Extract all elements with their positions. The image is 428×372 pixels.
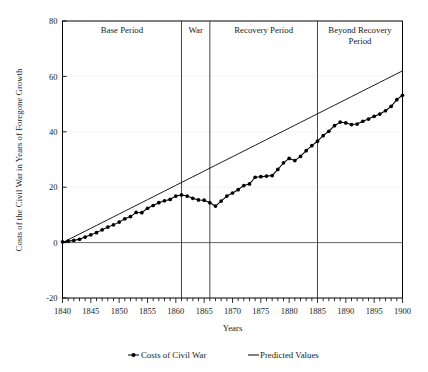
data-point bbox=[265, 174, 269, 178]
data-point bbox=[321, 134, 325, 138]
xtick-label-1860: 1860 bbox=[167, 306, 184, 316]
xtick-label-1855: 1855 bbox=[139, 306, 156, 316]
data-point bbox=[401, 93, 405, 97]
ytick-label--20: -20 bbox=[46, 293, 57, 303]
data-point bbox=[146, 206, 150, 210]
data-point bbox=[89, 233, 93, 237]
data-point bbox=[202, 198, 206, 202]
data-point bbox=[259, 175, 263, 179]
data-point bbox=[225, 194, 229, 198]
data-point bbox=[338, 120, 342, 124]
ytick-label-20: 20 bbox=[49, 182, 58, 192]
data-point bbox=[350, 123, 354, 127]
xtick-label-1850: 1850 bbox=[111, 306, 128, 316]
data-point bbox=[327, 129, 331, 133]
data-point bbox=[242, 184, 246, 188]
period-band-label-3: Beyond Recovery bbox=[328, 25, 392, 35]
xtick-label-1885: 1885 bbox=[309, 306, 326, 316]
data-point bbox=[378, 112, 382, 116]
data-point bbox=[95, 231, 99, 235]
data-point bbox=[208, 201, 212, 205]
x-axis-title: Years bbox=[223, 323, 243, 333]
data-point bbox=[253, 175, 257, 179]
data-point bbox=[344, 121, 348, 125]
data-point bbox=[293, 159, 297, 163]
xtick-label-1875: 1875 bbox=[252, 306, 269, 316]
xtick-label-1890: 1890 bbox=[337, 306, 354, 316]
data-point bbox=[310, 144, 314, 148]
data-point bbox=[78, 237, 82, 241]
period-band-label-3-line2: Period bbox=[349, 36, 373, 46]
ytick-label-60: 60 bbox=[49, 72, 58, 82]
data-point bbox=[100, 228, 104, 232]
xtick-label-1900: 1900 bbox=[394, 306, 411, 316]
data-point bbox=[117, 220, 121, 224]
ytick-label-40: 40 bbox=[49, 127, 58, 137]
data-point bbox=[372, 114, 376, 118]
data-point bbox=[163, 199, 167, 203]
xtick-label-1845: 1845 bbox=[82, 306, 99, 316]
data-point bbox=[180, 193, 184, 197]
data-point bbox=[123, 217, 127, 221]
period-band-label-1: War bbox=[188, 25, 203, 35]
costs-of-civil-war-chart: Base PeriodWarRecovery PeriodBeyond Reco… bbox=[0, 0, 428, 372]
legend-marker-costs-of-civil-war bbox=[131, 353, 135, 357]
ytick-label-0: 0 bbox=[53, 238, 57, 248]
period-band-label-2: Recovery Period bbox=[234, 25, 293, 35]
data-point bbox=[304, 149, 308, 153]
data-point bbox=[282, 161, 286, 165]
data-point bbox=[333, 124, 337, 128]
xtick-label-1895: 1895 bbox=[366, 306, 383, 316]
period-band-label-0: Base Period bbox=[101, 25, 144, 35]
data-point bbox=[134, 211, 138, 215]
data-point bbox=[106, 225, 110, 229]
data-point bbox=[248, 182, 252, 186]
data-point bbox=[112, 223, 116, 227]
data-point bbox=[367, 117, 371, 121]
data-point bbox=[236, 188, 240, 192]
data-point bbox=[191, 196, 195, 200]
data-point bbox=[140, 211, 144, 215]
data-point bbox=[395, 98, 399, 102]
data-point bbox=[83, 235, 87, 239]
xtick-label-1880: 1880 bbox=[281, 306, 298, 316]
data-point bbox=[316, 139, 320, 143]
ytick-label-80: 80 bbox=[49, 16, 58, 26]
xtick-label-1865: 1865 bbox=[196, 306, 213, 316]
data-point bbox=[219, 199, 223, 203]
series-line-costs-of-civil-war bbox=[63, 95, 403, 242]
data-point bbox=[61, 240, 65, 244]
xtick-label-1840: 1840 bbox=[54, 306, 71, 316]
data-point bbox=[151, 204, 155, 208]
data-point bbox=[231, 191, 235, 195]
data-point bbox=[389, 104, 393, 108]
series-line-predicted-values bbox=[63, 71, 403, 243]
data-point bbox=[185, 194, 189, 198]
data-point bbox=[129, 215, 133, 219]
xtick-label-1870: 1870 bbox=[224, 306, 241, 316]
data-point bbox=[174, 194, 178, 198]
data-point bbox=[157, 201, 161, 205]
data-point bbox=[276, 168, 280, 172]
data-point bbox=[299, 155, 303, 159]
data-point bbox=[287, 157, 291, 161]
plot-frame bbox=[63, 21, 403, 298]
y-axis-title: Costs of the Civil War in Years of Foreg… bbox=[14, 68, 24, 251]
data-point bbox=[384, 109, 388, 113]
data-point bbox=[361, 119, 365, 123]
data-point bbox=[214, 204, 218, 208]
legend-label-predicted-values: Predicted Values bbox=[260, 350, 319, 360]
data-point bbox=[270, 174, 274, 178]
data-point bbox=[72, 239, 76, 243]
data-point bbox=[197, 198, 201, 202]
data-point bbox=[66, 239, 70, 243]
chart-figure: Base PeriodWarRecovery PeriodBeyond Reco… bbox=[0, 0, 428, 372]
legend-label-costs-of-civil-war: Costs of Civil War bbox=[141, 350, 206, 360]
data-point bbox=[168, 198, 172, 202]
data-point bbox=[355, 122, 359, 126]
